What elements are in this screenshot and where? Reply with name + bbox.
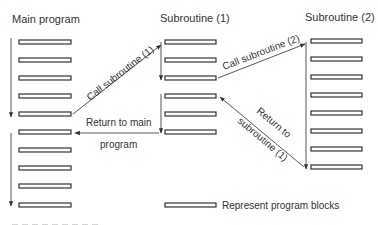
program-block [311,147,362,151]
program-block [19,166,71,170]
program-block [165,112,216,116]
main-program-blocks [19,40,71,207]
heading-main-program: Main program [12,13,80,25]
program-block [311,39,362,43]
program-block [165,40,216,44]
heading-subroutine-1: Subroutine (1) [160,12,230,24]
program-block [311,57,362,61]
program-block [311,165,362,169]
subroutine-2-blocks [311,39,362,169]
call-subroutine-1-label: Call subroutine (1) [84,44,155,103]
subroutine-call-diagram: Main program Subroutine (1) Subroutine (… [0,0,378,225]
legend-block-swatch [165,203,216,207]
legend-label: Represent program blocks [222,200,339,211]
program-block [311,93,362,97]
program-block [19,94,71,98]
program-block [19,76,71,80]
program-block [19,112,71,116]
clipped-figure-caption [12,219,102,225]
program-block [165,58,216,62]
subroutine-1-blocks [165,40,216,134]
program-block [165,76,216,80]
program-block [311,129,362,133]
program-block [165,94,216,98]
program-block [311,75,362,79]
program-block [165,130,216,134]
return-to-main-label-line2: program [100,139,137,150]
program-block [311,111,362,115]
program-block [19,40,71,44]
program-block [19,130,71,134]
program-block [19,203,71,207]
return-to-main-label-line1: Return to main [86,117,152,128]
program-block [19,184,71,188]
call-subroutine-2-label: Call subroutine (2) [221,32,301,72]
program-block [19,148,71,152]
program-block [19,58,71,62]
heading-subroutine-2: Subroutine (2) [305,11,375,23]
